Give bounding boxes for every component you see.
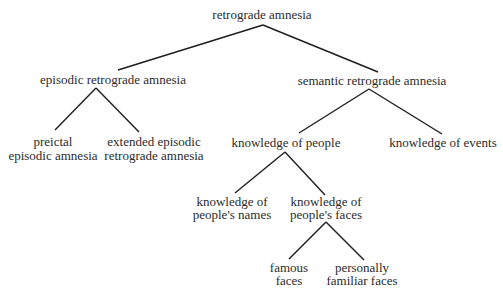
node-knowledge-of-people: knowledge of people — [231, 135, 340, 150]
node-preictal-episodic-amnesia: preictal episodic amnesia — [8, 134, 97, 163]
node-famous-label-line2: faces — [276, 273, 303, 288]
node-preictal-label-line2: episodic amnesia — [8, 148, 97, 163]
node-semantic-label: semantic retrograde amnesia — [298, 73, 447, 88]
node-names-label-line2: people's names — [193, 207, 272, 222]
edge-root-episodic — [118, 25, 263, 70]
node-root: retrograde amnesia — [212, 7, 311, 22]
node-preictal-label-line1: preictal — [34, 134, 73, 149]
edge-semantic-events — [369, 89, 442, 134]
node-extended-episodic-retrograde-amnesia: extended episodic retrograde amnesia — [104, 134, 203, 163]
retrograde-amnesia-tree-diagram: retrograde amnesia episodic retrograde a… — [0, 0, 503, 297]
node-semantic-retrograde-amnesia: semantic retrograde amnesia — [298, 73, 447, 88]
edge-episodic-preictal — [55, 88, 96, 130]
node-faces-label-line2: people's faces — [290, 207, 362, 222]
node-knowledge-of-events: knowledge of events — [389, 135, 497, 150]
edge-faces-famous — [289, 222, 326, 259]
node-famous-faces: famous faces — [270, 260, 308, 288]
edge-semantic-people — [299, 89, 369, 133]
node-extended-label-line1: extended episodic — [107, 134, 201, 149]
node-extended-label-line2: retrograde amnesia — [104, 148, 203, 163]
edge-people-names — [235, 152, 285, 193]
node-knowledge-of-peoples-names: knowledge of people's names — [193, 194, 272, 222]
edge-root-semantic — [263, 25, 378, 72]
node-knowledge-of-peoples-faces: knowledge of people's faces — [290, 194, 362, 222]
node-episodic-label: episodic retrograde amnesia — [40, 72, 186, 87]
node-events-label: knowledge of events — [389, 135, 497, 150]
edge-people-faces — [285, 152, 325, 195]
node-root-label: retrograde amnesia — [212, 7, 311, 22]
node-personally-familiar-faces: personally familiar faces — [326, 260, 397, 288]
node-familiar-label-line2: familiar faces — [326, 273, 397, 288]
node-people-label: knowledge of people — [231, 135, 340, 150]
edge-faces-familiar — [326, 222, 364, 260]
node-episodic-retrograde-amnesia: episodic retrograde amnesia — [40, 72, 186, 87]
edge-episodic-extended — [96, 88, 139, 132]
